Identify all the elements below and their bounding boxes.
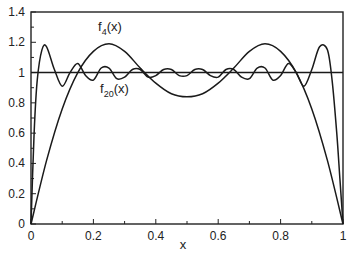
y-tick-label: 0.2 (8, 187, 25, 201)
curve-label: f20(x) (100, 81, 129, 99)
y-tick-label: 0.4 (8, 156, 25, 170)
plot-area-border (31, 12, 343, 224)
plot-frame (31, 12, 343, 224)
series-layer (31, 44, 343, 224)
y-tick-label: 1 (18, 66, 25, 80)
y-tick-label: 1.2 (8, 35, 25, 49)
y-tick-labels: 00.20.40.60.811.21.4 (8, 5, 25, 231)
y-tick-label: 1.4 (8, 5, 25, 19)
curve-labels: f4(x)f20(x) (98, 19, 129, 99)
y-tick-label: 0.8 (8, 96, 25, 110)
line-chart: 00.20.40.60.81 00.20.40.60.811.21.4 f4(x… (0, 0, 350, 264)
curve-label: f4(x) (98, 19, 122, 37)
x-tick-label: 0 (28, 229, 35, 243)
x-tick-labels: 00.20.40.60.81 (28, 229, 347, 243)
y-tick-label: 0 (18, 217, 25, 231)
x-tick-label: 0.8 (272, 229, 289, 243)
x-tick-label: 0.2 (85, 229, 102, 243)
y-tick-label: 0.6 (8, 126, 25, 140)
x-tick-label: 0.4 (147, 229, 164, 243)
x-tick-label: 0.6 (210, 229, 227, 243)
series-f4-x- (31, 44, 343, 224)
x-tick-label: 1 (340, 229, 347, 243)
x-axis-label: x (180, 237, 187, 252)
axis-ticks (31, 12, 343, 224)
